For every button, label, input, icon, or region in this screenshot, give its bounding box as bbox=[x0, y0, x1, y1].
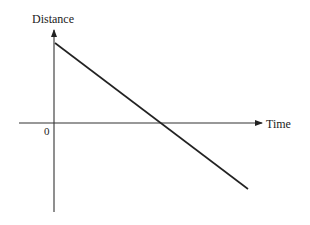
x-axis-label: Time bbox=[266, 117, 291, 131]
distance-time-graph: Distance Time 0 bbox=[0, 0, 310, 225]
y-axis-label: Distance bbox=[32, 12, 74, 26]
distance-line bbox=[55, 43, 248, 189]
origin-label: 0 bbox=[44, 125, 50, 137]
